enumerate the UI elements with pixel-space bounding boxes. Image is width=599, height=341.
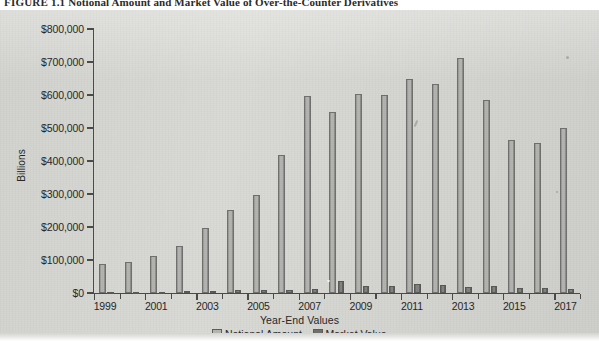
y-axis-tick-label: $700,000 [41,56,84,68]
x-axis-tick-label: 2013 [452,300,475,312]
bar-notional-2006 [278,155,285,293]
x-axis-title: Year-End Values [0,314,599,326]
bar-market-2005 [261,290,267,293]
bar-notional-2015 [508,140,515,293]
bar-notional-2012 [432,84,439,293]
bar-market-2006 [286,290,292,293]
bar-market-2009 [363,286,369,293]
x-axis-tick [375,294,376,299]
x-axis-tick [324,294,325,299]
figure-caption-bar: FIGURE 1.1 Notional Amount and Market Va… [0,0,599,10]
bar-market-2002 [184,291,190,293]
y-axis-tick [87,127,93,128]
x-axis-tick [427,294,428,299]
x-axis-tick [529,294,530,299]
y-axis-tick [87,259,93,260]
y-axis-tick [87,61,93,62]
bar-notional-2010 [381,95,388,293]
plot-area: $0$100,000$200,000$300,000$400,000$500,0… [0,10,599,333]
y-axis-tick-label: $600,000 [41,89,84,101]
y-axis-tick-label: $300,000 [41,188,84,200]
bar-market-2003 [210,291,216,293]
chart-panel: $0$100,000$200,000$300,000$400,000$500,0… [0,10,599,333]
scan-speck [566,56,569,59]
bar-notional-2007 [304,96,311,293]
x-axis-line [93,293,580,294]
y-axis-tick [87,292,93,293]
x-axis-tick [580,294,581,299]
y-axis-tick-label: $100,000 [41,254,84,266]
y-axis-title: Billions [16,136,27,196]
y-axis-tick [87,160,93,161]
x-axis-tick [222,294,223,299]
x-axis-tick [171,294,172,299]
panel-bottom-fade [0,333,599,341]
x-axis-tick-label: 2017 [554,300,577,312]
x-axis-tick-label: 2015 [503,300,526,312]
bar-market-2004 [235,290,241,293]
x-axis-tick-label: 2001 [145,300,168,312]
bar-notional-2003 [202,228,209,293]
bar-market-2007 [312,289,318,293]
bar-market-1999 [107,292,113,294]
bar-notional-2002 [176,246,183,293]
x-axis-tick-label: 2007 [298,300,321,312]
figure-caption-text: Notional Amount and Market Value of Over… [68,0,398,8]
bar-notional-2016 [534,143,541,293]
bar-market-2010 [389,286,395,293]
bar-notional-2008 [329,112,336,293]
y-axis-tick [87,226,93,227]
bar-market-2001 [159,292,165,294]
x-axis-tick-label: 2009 [350,300,373,312]
x-axis-tick [273,294,274,299]
x-axis-tick-label: 2005 [247,300,270,312]
bar-notional-2009 [355,94,362,293]
y-axis-tick [87,94,93,95]
bar-market-2008 [338,281,344,293]
bar-notional-2001 [150,256,157,293]
scan-speck [556,191,558,193]
bar-notional-2000 [125,262,132,293]
bar-notional-2004 [227,210,234,293]
y-axis-tick-label: $400,000 [41,155,84,167]
y-axis-tick [87,28,93,29]
bar-notional-2011 [406,79,413,293]
bar-notional-1999 [99,264,106,293]
bar-market-2017 [568,289,574,293]
bar-market-2014 [491,286,497,293]
figure-caption: FIGURE 1.1 Notional Amount and Market Va… [4,0,398,8]
x-axis-tick-label: 2003 [196,300,219,312]
x-axis-tick [120,294,121,299]
y-axis-line [93,28,94,294]
x-axis-tick-label: 2011 [401,300,423,312]
y-axis-tick [87,193,93,194]
bar-market-2000 [133,292,139,294]
scan-speck [414,120,418,127]
y-axis-tick-label: $0 [73,287,84,299]
y-axis-labels: $0$100,000$200,000$300,000$400,000$500,0… [0,10,84,333]
x-axis-tick [478,294,479,299]
bar-market-2016 [542,288,548,293]
bar-notional-2014 [483,100,490,293]
bar-market-2015 [517,288,523,293]
bar-notional-2017 [560,128,567,293]
x-axis-tick-label: 1999 [94,300,117,312]
y-axis-tick-label: $500,000 [41,122,84,134]
bar-market-2013 [465,287,471,293]
y-axis-tick-label: $800,000 [41,23,84,35]
figure-panel: FIGURE 1.1 Notional Amount and Market Va… [0,0,599,341]
figure-number: FIGURE 1.1 [4,0,65,8]
bar-notional-2013 [457,58,464,293]
bar-market-2012 [440,285,446,293]
y-axis-tick-label: $200,000 [41,221,84,233]
bar-market-2011 [414,284,420,293]
bar-notional-2005 [253,195,260,293]
